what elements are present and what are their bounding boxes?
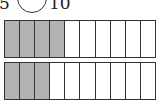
tape-diagram-bottom [4,62,156,100]
unshaded-cell [141,63,156,99]
shaded-cell [35,21,50,57]
shaded-cell [5,63,20,99]
tape-diagram-top [4,20,156,58]
unshaded-cell [65,63,80,99]
unshaded-cell [111,21,126,57]
left-fraction-denominator: 5 [0,0,10,12]
unshaded-cell [96,21,111,57]
unshaded-cell [126,63,141,99]
shaded-cell [35,63,50,99]
right-fraction-denominator: 10 [49,0,71,12]
unshaded-cell [111,63,126,99]
unshaded-cell [50,63,65,99]
unshaded-cell [141,21,156,57]
shaded-cell [50,21,65,57]
shaded-cell [20,21,35,57]
unshaded-cell [96,63,111,99]
shaded-cell [5,21,20,57]
unshaded-cell [65,21,80,57]
unshaded-cell [80,21,95,57]
unshaded-cell [80,63,95,99]
comparison-answer-circle[interactable] [17,0,47,13]
unshaded-cell [126,21,141,57]
shaded-cell [20,63,35,99]
